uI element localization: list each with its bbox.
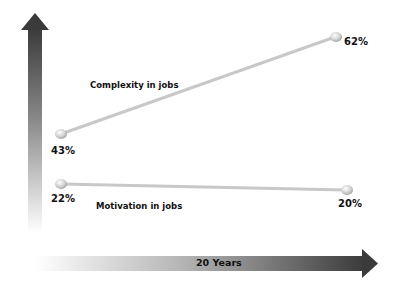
motivation-end-value: 20% [338, 198, 362, 209]
complexity-series-label: Complexity in jobs [90, 80, 178, 90]
complexity-start-marker [55, 129, 67, 139]
complexity-start-value: 43% [51, 145, 75, 156]
complexity-end-value: 62% [344, 36, 368, 47]
motivation-end-marker [341, 185, 353, 195]
x-axis-label: 20 Years [196, 257, 242, 268]
motivation-start-value: 22% [51, 193, 75, 204]
motivation-start-marker [55, 179, 67, 189]
motivation-series-label: Motivation in jobs [96, 201, 182, 211]
complexity-end-marker [330, 32, 342, 42]
motivation-line [61, 184, 346, 190]
y-axis-arrow [21, 13, 49, 233]
